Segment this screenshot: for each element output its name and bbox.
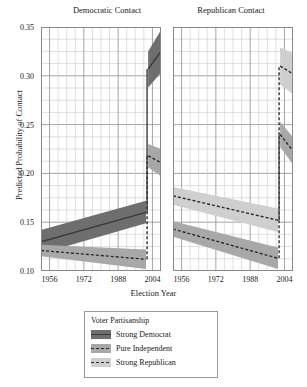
y-tick-label: 0.30 (4, 71, 34, 80)
y-tick-label: 0.20 (4, 169, 34, 178)
y-tick-label: 0.25 (4, 120, 34, 129)
panel-svg (173, 27, 293, 271)
legend-swatch-icon (91, 358, 111, 367)
y-tick-label: 0.15 (4, 218, 34, 227)
legend-item[interactable]: Strong Democrat (91, 327, 211, 341)
x-tick-label: 1972 (69, 275, 99, 284)
legend-title: Voter Partisanship (91, 316, 211, 325)
x-tick-label: 1988 (103, 275, 133, 284)
plot-panel-republican (173, 27, 293, 271)
legend-label: Strong Democrat (116, 330, 171, 339)
legend-label: Strong Republican (116, 358, 176, 367)
legend-rows: Strong DemocratPure IndependentStrong Re… (91, 327, 211, 369)
legend-label: Pure Independent (116, 344, 172, 353)
panel-title-republican: Republican Contact (176, 5, 286, 15)
legend-swatch-icon (91, 330, 111, 339)
figure: Democratic Contact Republican Contact Pr… (0, 0, 307, 387)
y-tick-label: 0.10 (4, 267, 34, 276)
x-tick-label: 2004 (269, 275, 299, 284)
x-axis-label: Election Year (0, 288, 307, 298)
plot-panel-democratic (41, 27, 161, 271)
x-tick-label: 1956 (167, 275, 197, 284)
x-tick-label: 1972 (201, 275, 231, 284)
panel-svg (41, 27, 161, 271)
plot-area (41, 27, 293, 271)
legend-item[interactable]: Strong Republican (91, 355, 211, 369)
x-tick-label: 1956 (35, 275, 65, 284)
x-tick-label: 2004 (137, 275, 167, 284)
legend-swatch-icon (91, 344, 111, 353)
panel-title-democratic: Democratic Contact (52, 5, 162, 15)
x-tick-label: 1988 (235, 275, 265, 284)
legend: Voter Partisanship Strong DemocratPure I… (84, 311, 218, 378)
legend-item[interactable]: Pure Independent (91, 341, 211, 355)
y-axis-label: Predicted Probability of Contact (14, 70, 24, 220)
y-tick-label: 0.35 (4, 23, 34, 32)
